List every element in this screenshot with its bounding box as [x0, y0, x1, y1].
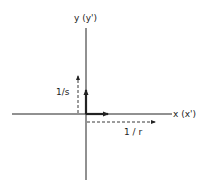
x-vector-label: 1 / r — [124, 127, 142, 137]
y-vector-label: 1/s — [56, 87, 70, 97]
axes-diagram: y (y') x (x') 1/s 1 / r — [0, 0, 209, 193]
y-axis-label: y (y') — [74, 13, 97, 23]
x-axis-label: x (x') — [173, 109, 196, 119]
